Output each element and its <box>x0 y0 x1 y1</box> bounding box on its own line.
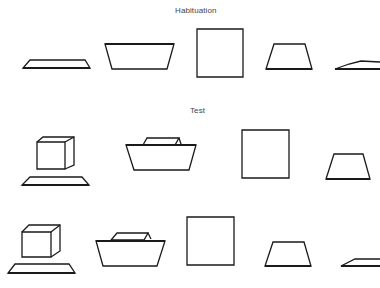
test2-cube <box>22 225 60 257</box>
habituation-wide-trapezoid <box>105 44 174 69</box>
test1-cube <box>37 137 74 169</box>
test1-small-trapezoid <box>326 154 370 179</box>
habituation-square-face <box>197 29 243 77</box>
test1-square-face <box>242 130 289 178</box>
habituation-small-trapezoid <box>266 44 312 69</box>
test1-slab <box>22 177 89 185</box>
test2-small-trapezoid <box>265 242 311 266</box>
shapes-layer <box>0 0 380 288</box>
test2-small-block <box>111 233 151 240</box>
habituation-flat-slab <box>23 60 90 68</box>
test2-slab <box>8 264 75 273</box>
test2-square-face <box>187 217 234 265</box>
diagram-canvas: Habituation Test <box>0 0 380 288</box>
habituation-thin-slab-partial <box>335 61 380 69</box>
test2-trapezoid-base <box>96 241 165 266</box>
test2-thin-slab-partial <box>341 259 380 266</box>
test1-trapezoid-base <box>126 145 196 170</box>
test1-small-block <box>143 138 181 145</box>
